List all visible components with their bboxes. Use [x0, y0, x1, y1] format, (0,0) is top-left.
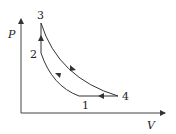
y-axis-label: P [7, 28, 16, 41]
x-axis-label: V [147, 119, 156, 132]
arrow-3-4-icon [70, 65, 76, 71]
arrow-1-2-icon [55, 73, 61, 78]
process-1-2 [41, 53, 87, 96]
point-4-label: 4 [122, 90, 129, 103]
pv-diagram: P V 3 2 1 4 [0, 0, 176, 134]
arrow-4-1-icon [98, 93, 104, 99]
point-1-label: 1 [82, 99, 89, 112]
arrow-2-3-icon [38, 35, 44, 41]
point-3-label: 3 [37, 9, 44, 22]
point-2-label: 2 [30, 48, 37, 61]
process-3-4 [41, 23, 118, 96]
